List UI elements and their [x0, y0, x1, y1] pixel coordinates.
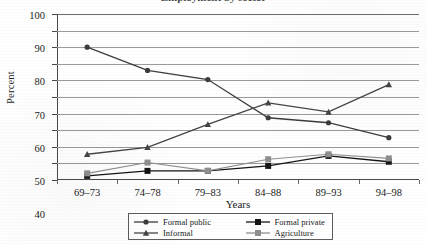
- legend-label: Agriculture: [275, 228, 314, 238]
- x-axis-title: Years: [57, 198, 419, 210]
- x-tick-label: 79–83: [195, 187, 221, 198]
- data-point-marker: [265, 163, 271, 169]
- data-point-marker: [326, 120, 331, 125]
- legend-marker-icon: [133, 228, 159, 238]
- legend-label: Formal private: [275, 217, 325, 227]
- legend-item-formal-public[interactable]: Formal public: [133, 216, 231, 228]
- data-point-marker: [326, 151, 332, 157]
- data-point-marker: [145, 68, 150, 73]
- series-line: [87, 47, 389, 137]
- x-tick-label: 74–78: [134, 187, 160, 198]
- y-tick-label: 40: [35, 209, 46, 220]
- legend-item-informal[interactable]: Informal: [133, 228, 231, 240]
- x-tick-label: 89–93: [315, 187, 341, 198]
- x-tick-mark: [298, 180, 299, 184]
- chart-title-text: Employment by sector: [0, 0, 427, 3]
- y-tick-label: 60: [35, 142, 46, 153]
- data-point-marker: [255, 219, 261, 225]
- y-axis-title: Percent: [5, 56, 16, 120]
- y-tick-label: 50: [35, 176, 46, 187]
- data-point-marker: [145, 168, 151, 174]
- x-tick-mark: [117, 180, 118, 184]
- legend-marker-icon: [245, 228, 271, 238]
- data-point-marker: [205, 77, 210, 82]
- legend-item-formal-private[interactable]: Formal private: [231, 216, 329, 228]
- x-tick-mark: [178, 180, 179, 184]
- x-tick-mark: [359, 180, 360, 184]
- chart-figure: Employment by sector Percent 01020304050…: [0, 0, 427, 244]
- series-formal-public: [85, 45, 392, 141]
- data-point-marker: [145, 160, 151, 166]
- x-tick-mark: [57, 180, 58, 184]
- x-tick-label: 69–73: [74, 187, 100, 198]
- data-point-marker: [386, 135, 391, 140]
- legend-item-agriculture[interactable]: Agriculture: [231, 228, 329, 240]
- data-point-marker: [386, 155, 392, 161]
- legend-marker-icon: [245, 217, 271, 227]
- x-tick-mark: [238, 180, 239, 184]
- legend-label: Formal public: [163, 217, 211, 227]
- chart-legend: Formal publicFormal privateInformalAgric…: [128, 213, 333, 240]
- series-line: [87, 85, 389, 155]
- data-point-marker: [85, 45, 90, 50]
- y-tick-label: 70: [35, 109, 46, 120]
- series-line: [87, 156, 389, 176]
- y-tick-label: 100: [29, 10, 45, 21]
- data-point-marker: [205, 168, 211, 174]
- data-series-layer: [57, 14, 419, 180]
- data-point-marker: [386, 81, 392, 87]
- data-point-marker: [143, 219, 148, 224]
- x-tick-label: 94–98: [376, 187, 402, 198]
- x-tick-label: 84–88: [255, 187, 281, 198]
- data-point-marker: [84, 170, 90, 176]
- y-tick-label: 80: [35, 76, 46, 87]
- y-tick-label: 90: [35, 43, 46, 54]
- plot-area: 0102030405060708090100 69–7374–7879–8384…: [57, 14, 419, 180]
- x-tick-mark: [419, 180, 420, 184]
- data-point-marker: [255, 230, 261, 236]
- chart-title-cutoff: Employment by sector: [0, 0, 427, 7]
- data-point-marker: [265, 156, 271, 162]
- data-point-marker: [266, 115, 271, 120]
- legend-label: Informal: [163, 228, 193, 238]
- series-informal: [84, 81, 392, 157]
- legend-marker-icon: [133, 217, 159, 227]
